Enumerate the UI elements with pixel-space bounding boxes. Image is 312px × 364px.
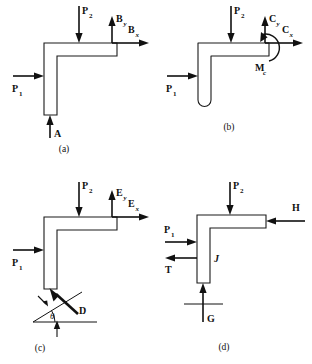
incline-tick-lower-c [54, 321, 60, 338]
label-p1-a: P [12, 83, 18, 94]
label-ex-sub: x [135, 205, 140, 213]
force-arrow-p1-b [167, 72, 198, 79]
label-p1-sub-d: 1 [171, 231, 175, 239]
force-arrow-a-point [46, 115, 53, 138]
label-p2-b: P [234, 5, 240, 16]
label-bx-sub: x [135, 31, 140, 39]
label-ex: E [128, 198, 135, 209]
force-arrow-t [165, 254, 197, 261]
label-p1-b: P [166, 83, 172, 94]
label-h: H [292, 202, 300, 213]
label-p2-d: P [233, 182, 239, 191]
label-g-point: G [207, 313, 215, 324]
label-mc-sub: c [263, 69, 266, 77]
label-p2-sub-d: 2 [240, 187, 244, 195]
force-arrow-p1-a [13, 72, 44, 79]
free-body-diagram-figure: P 2 P 1 A B y B x (a) [0, 0, 312, 364]
label-cy: C [269, 13, 276, 24]
label-t: T [165, 264, 172, 275]
label-a-point: A [54, 128, 62, 139]
panel-a: P 2 P 1 A B y B x (a) [0, 0, 156, 182]
panel-d: P 2 H P 1 T J G (d) [156, 182, 312, 364]
label-by: B [116, 13, 123, 24]
label-p2-sub-b: 2 [241, 12, 245, 20]
label-p2-c: P [82, 182, 88, 191]
label-p1-d: P [164, 224, 170, 235]
label-cy-sub: y [276, 20, 281, 28]
label-cx-sub: x [289, 31, 294, 39]
bracket-body-b [198, 43, 269, 106]
caption-d: (d) [218, 342, 229, 353]
label-bx: B [128, 24, 135, 35]
force-arrow-p1-d [165, 238, 197, 245]
label-by-sub: y [123, 20, 128, 28]
label-cx: C [282, 24, 289, 35]
caption-b: (b) [223, 122, 234, 133]
label-p1-c: P [12, 257, 18, 268]
force-arrow-p1-c [13, 246, 44, 253]
force-arrow-cx [265, 39, 303, 46]
label-j-point: J [213, 253, 220, 264]
caption-c: (c) [35, 343, 46, 354]
label-ey-sub: y [123, 194, 128, 202]
label-p1-sub-c: 1 [19, 264, 23, 272]
label-p2-sub-c: 2 [89, 187, 93, 195]
incline-tick-upper-c [38, 296, 48, 307]
label-p1-sub-b: 1 [173, 90, 177, 98]
label-theta-c: θ [50, 311, 55, 321]
bracket-body-d [197, 215, 266, 283]
label-ey: E [116, 187, 123, 198]
panel-b: P 2 P 1 C y C x M c (b) [156, 0, 312, 182]
caption-a: (a) [59, 144, 70, 155]
bracket-body-a [44, 43, 117, 115]
force-arrow-h [266, 217, 305, 224]
force-arrow-g [184, 283, 223, 322]
force-arrow-ey [108, 190, 115, 217]
label-d-point: D [79, 305, 86, 316]
force-arrow-by [108, 16, 115, 43]
panel-c: P 2 P 1 E y E x D [0, 182, 156, 364]
label-p1-sub-a: 1 [19, 90, 23, 98]
bracket-body-c [44, 217, 117, 289]
label-p2-sub-a: 2 [89, 12, 93, 20]
label-p2-a: P [82, 5, 88, 16]
